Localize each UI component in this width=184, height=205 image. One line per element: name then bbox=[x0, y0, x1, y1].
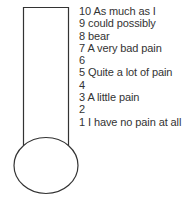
scale-item-8: 8 bear bbox=[79, 30, 181, 42]
scale-item-3: 3 A little pain bbox=[79, 91, 181, 103]
scale-item-9: 9 could possibly bbox=[79, 17, 181, 29]
thermometer-bulb bbox=[14, 138, 78, 194]
pain-scale: 10 As much as I 9 could possibly 8 bear … bbox=[79, 5, 181, 128]
scale-item-4: 4 bbox=[79, 79, 181, 91]
scale-item-10: 10 As much as I bbox=[79, 5, 181, 17]
scale-item-5: 5 Quite a lot of pain bbox=[79, 66, 181, 78]
scale-item-2: 2 bbox=[79, 103, 181, 115]
scale-item-7: 7 A very bad pain bbox=[79, 42, 181, 54]
scale-item-6: 6 bbox=[79, 54, 181, 66]
scale-item-1: 1 I have no pain at all bbox=[79, 116, 181, 128]
thermometer-tube bbox=[24, 8, 69, 146]
